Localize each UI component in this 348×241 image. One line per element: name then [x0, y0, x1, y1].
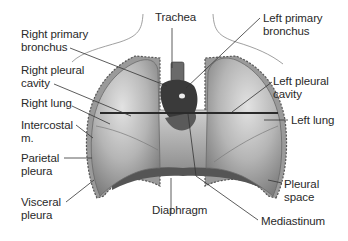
label-left-primary-bronchus-line1: Left primary [263, 12, 323, 25]
label-visceral-pleura-line1: Visceral [21, 196, 61, 209]
label-right-lung: Right lung [21, 97, 72, 110]
label-intercostal-line1: Intercostal [21, 119, 73, 132]
label-parietal-pleura-line2: pleura [21, 165, 52, 178]
label-visceral-pleura-line2: pleura [21, 209, 52, 222]
label-right-primary-bronchus-line1: Right primary [21, 28, 88, 41]
label-left-lung: Left lung [291, 114, 334, 127]
label-parietal-pleura-line1: Parietal [21, 152, 59, 165]
label-right-primary-bronchus-line2: bronchus [21, 41, 68, 54]
label-pleural-space-line1: Pleural [284, 178, 319, 191]
label-mediastinum: Mediastinum [261, 215, 325, 228]
label-diaphragm: Diaphragm [152, 204, 207, 217]
trachea-tube [171, 62, 184, 82]
label-pleural-space-line2: space [284, 191, 314, 204]
label-trachea: Trachea [155, 11, 196, 24]
label-right-pleural-cavity-line1: Right pleural [21, 64, 84, 77]
label-intercostal-line2: m. [21, 132, 34, 145]
label-left-pleural-cavity-line1: Left pleural [273, 75, 329, 88]
leader-visceral-pleura [66, 180, 94, 202]
thorax-diagram: Trachea Right primary bronchus Left prim… [0, 0, 348, 241]
label-left-primary-bronchus-line2: bronchus [263, 25, 310, 38]
label-left-pleural-cavity-line2: cavity [273, 88, 302, 101]
label-right-pleural-cavity-line2: cavity [21, 77, 50, 90]
